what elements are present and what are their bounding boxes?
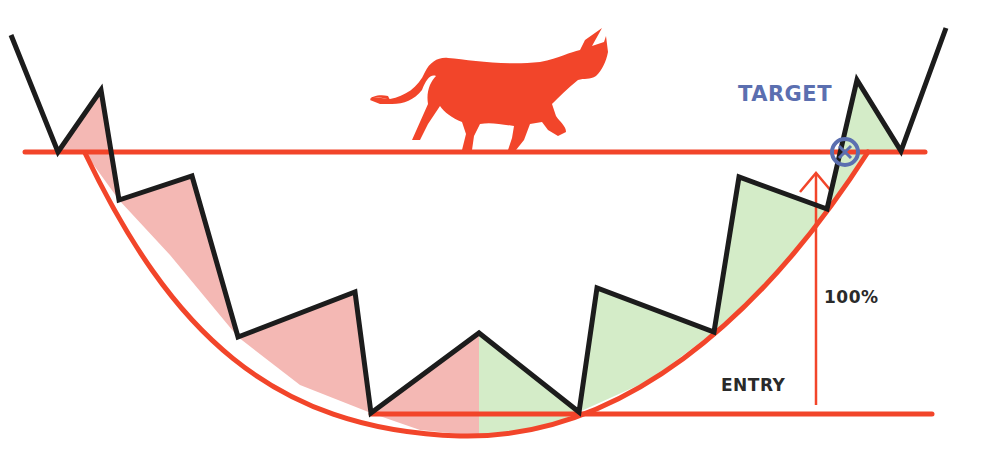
entry-label: ENTRY — [721, 375, 785, 395]
target-label: TARGET — [738, 82, 832, 106]
move-percent-label: 100% — [824, 287, 879, 307]
cup-pattern-diagram: TARGET 100% ENTRY — [0, 0, 1001, 469]
bull-silhouette-icon — [370, 28, 608, 150]
